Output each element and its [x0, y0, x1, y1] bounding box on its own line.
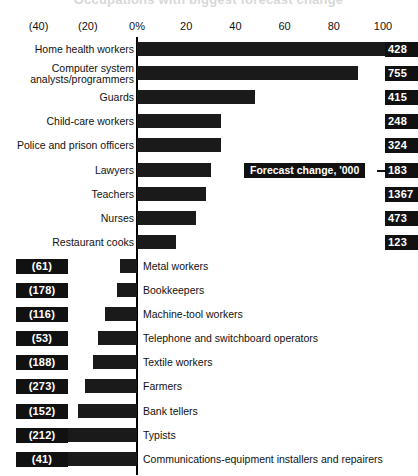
legend-callout: Forecast change, '000: [244, 163, 365, 178]
value-chip: 324: [385, 138, 418, 153]
value-chip: 755: [385, 66, 418, 81]
category-label: Nurses: [101, 211, 134, 225]
value-chip: 473: [385, 211, 418, 226]
bar: [137, 66, 358, 80]
value-chip: (53): [16, 331, 68, 346]
value-chip: (188): [16, 355, 68, 370]
bar: [63, 428, 137, 442]
value-chip: (116): [16, 307, 68, 322]
category-label: Communications-equipment installers and …: [143, 452, 383, 466]
chart-row: Restaurant cooks123: [0, 235, 417, 249]
chart-row: Police and prison officers324: [0, 138, 417, 152]
bar: [137, 138, 221, 152]
bar: [117, 283, 137, 297]
x-axis-tick-labels: (40)(20)0%20406080100: [0, 20, 417, 36]
bar: [85, 379, 137, 393]
category-label: Police and prison officers: [17, 138, 134, 152]
bar: [120, 259, 137, 273]
bar: [93, 355, 137, 369]
value-chip: (152): [16, 404, 68, 419]
chart-row: Textile workers(188): [0, 355, 417, 369]
chart-row: Computer systemanalysts/programmers755: [0, 66, 417, 80]
category-label: Child-care workers: [46, 114, 134, 128]
chart-row: Metal workers(61): [0, 259, 417, 273]
category-label: Farmers: [143, 379, 182, 393]
value-chip: 123: [385, 235, 418, 250]
x-axis-tick-neg40: (40): [29, 20, 49, 32]
x-axis-tick-40: 40: [229, 20, 241, 32]
page-title: Occupations with biggest forecast change: [0, 0, 417, 5]
value-chip: 415: [385, 90, 418, 105]
value-chip: 248: [385, 114, 418, 129]
value-chip: 1367: [385, 187, 418, 202]
bar: [137, 42, 390, 56]
category-label: Guards: [100, 90, 134, 104]
chart-row: Teachers1367: [0, 187, 417, 201]
value-chip: (41): [16, 452, 68, 467]
category-label: Bookkeepers: [143, 283, 204, 297]
bar: [137, 114, 221, 128]
x-axis-tick-0: 0%: [129, 20, 145, 32]
category-label: Restaurant cooks: [52, 235, 134, 249]
chart-row: Guards415: [0, 90, 417, 104]
bar: [137, 235, 176, 249]
category-label: Telephone and switchboard operators: [143, 331, 318, 345]
value-chip: (61): [16, 259, 68, 274]
value-chip: (212): [16, 428, 68, 443]
category-label: Metal workers: [143, 259, 208, 273]
chart-row: Bank tellers(152): [0, 404, 417, 418]
bar: [137, 187, 206, 201]
value-chip: (273): [16, 379, 68, 394]
x-axis-tick-60: 60: [278, 20, 290, 32]
x-axis-tick-20: 20: [180, 20, 192, 32]
chart-row: Home health workers428: [0, 42, 417, 56]
category-label: Machine-tool workers: [143, 307, 243, 321]
value-chip: 183: [385, 163, 418, 178]
value-chip: 428: [385, 42, 418, 57]
category-label: Bank tellers: [143, 404, 198, 418]
bar: [105, 307, 137, 321]
category-label: Computer systemanalysts/programmers: [0, 63, 134, 85]
bar: [137, 211, 196, 225]
bar: [137, 90, 255, 104]
bar: [98, 331, 137, 345]
bar: [78, 404, 137, 418]
chart-row: Child-care workers248: [0, 114, 417, 128]
category-label: Textile workers: [143, 355, 212, 369]
chart-row: Bookkeepers(178): [0, 283, 417, 297]
category-label: Teachers: [91, 187, 134, 201]
category-label: Lawyers: [95, 163, 134, 177]
chart-row: Nurses473: [0, 211, 417, 225]
x-axis-tick-neg20: (20): [78, 20, 98, 32]
value-chip: (178): [16, 283, 68, 298]
bar: [137, 163, 211, 177]
chart-row: Typists(212): [0, 428, 417, 442]
chart-row: Machine-tool workers(116): [0, 307, 417, 321]
chart-row: Farmers(273): [0, 379, 417, 393]
x-axis-tick-80: 80: [328, 20, 340, 32]
category-label: Home health workers: [35, 42, 134, 56]
legend-connector: [377, 170, 385, 172]
chart-title-clipped: Occupations with biggest forecast change: [0, 0, 417, 10]
chart-row: Communications-equipment installers and …: [0, 452, 417, 466]
x-axis-tick-100: 100: [374, 20, 392, 32]
chart-row: Telephone and switchboard operators(53): [0, 331, 417, 345]
category-label: Typists: [143, 428, 176, 442]
